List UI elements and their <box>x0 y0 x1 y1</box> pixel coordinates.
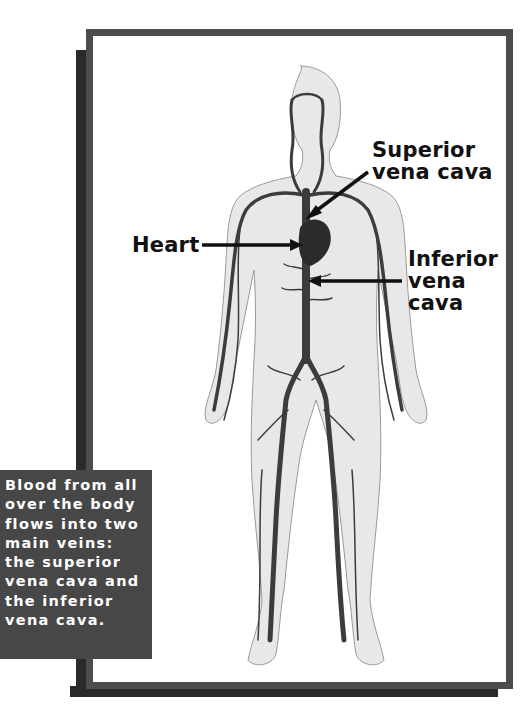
caption-box: Blood from all over the body flows into … <box>0 470 152 659</box>
caption-line: flows into two <box>5 515 152 534</box>
caption-line: over the body <box>5 495 152 514</box>
caption-line: vena cava and <box>5 572 152 591</box>
caption-line: the superior <box>5 553 152 572</box>
label-line: Superior <box>372 139 493 161</box>
label-line: vena <box>408 270 498 292</box>
label-superior-vena-cava: Superior vena cava <box>372 139 493 183</box>
label-heart: Heart <box>132 234 199 256</box>
label-inferior-vena-cava: Inferior vena cava <box>408 248 498 314</box>
caption-line: main veins: <box>5 534 152 553</box>
label-line: vena cava <box>372 161 493 183</box>
caption-line: Blood from all <box>5 476 152 495</box>
caption-line: vena cava. <box>5 611 152 630</box>
label-line: Inferior <box>408 248 498 270</box>
caption-line: the inferior <box>5 592 152 611</box>
label-line: cava <box>408 292 498 314</box>
